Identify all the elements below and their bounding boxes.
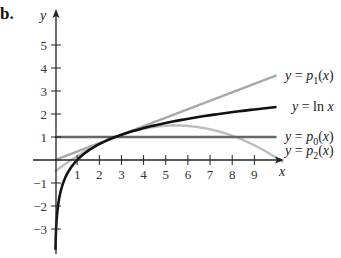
y-tick-label: −3 <box>33 222 47 237</box>
legend-label: y = p2(x) <box>283 143 334 161</box>
x-tick-label: 5 <box>163 167 170 182</box>
y-axis-label: y <box>38 8 47 23</box>
x-tick-label: 2 <box>96 167 103 182</box>
curve-y-p1-x- <box>55 75 277 160</box>
chart: 123456789−3−2−112345 xyy = p1(x)y = ln x… <box>0 0 341 258</box>
axes: 123456789−3−2−112345 <box>33 9 284 254</box>
x-tick-label: 1 <box>74 167 81 182</box>
y-tick-label: 3 <box>41 84 48 99</box>
y-tick-label: 4 <box>41 61 48 76</box>
x-tick-label: 3 <box>118 167 125 182</box>
x-tick-label: 7 <box>207 167 214 182</box>
y-tick-label: 2 <box>41 107 48 122</box>
x-tick-label: 9 <box>251 167 258 182</box>
x-tick-label: 8 <box>229 167 236 182</box>
y-tick-label: 5 <box>41 38 48 53</box>
x-axis-label: x <box>278 164 286 179</box>
legend-label: y = p1(x) <box>283 68 334 86</box>
curves <box>55 75 283 249</box>
legend-label: y = ln x <box>290 99 335 114</box>
x-tick-label: 6 <box>185 167 192 182</box>
y-tick-label: 1 <box>41 130 48 145</box>
y-tick-label: −1 <box>33 176 47 191</box>
x-tick-label: 4 <box>140 167 147 182</box>
y-tick-label: −2 <box>33 199 47 214</box>
